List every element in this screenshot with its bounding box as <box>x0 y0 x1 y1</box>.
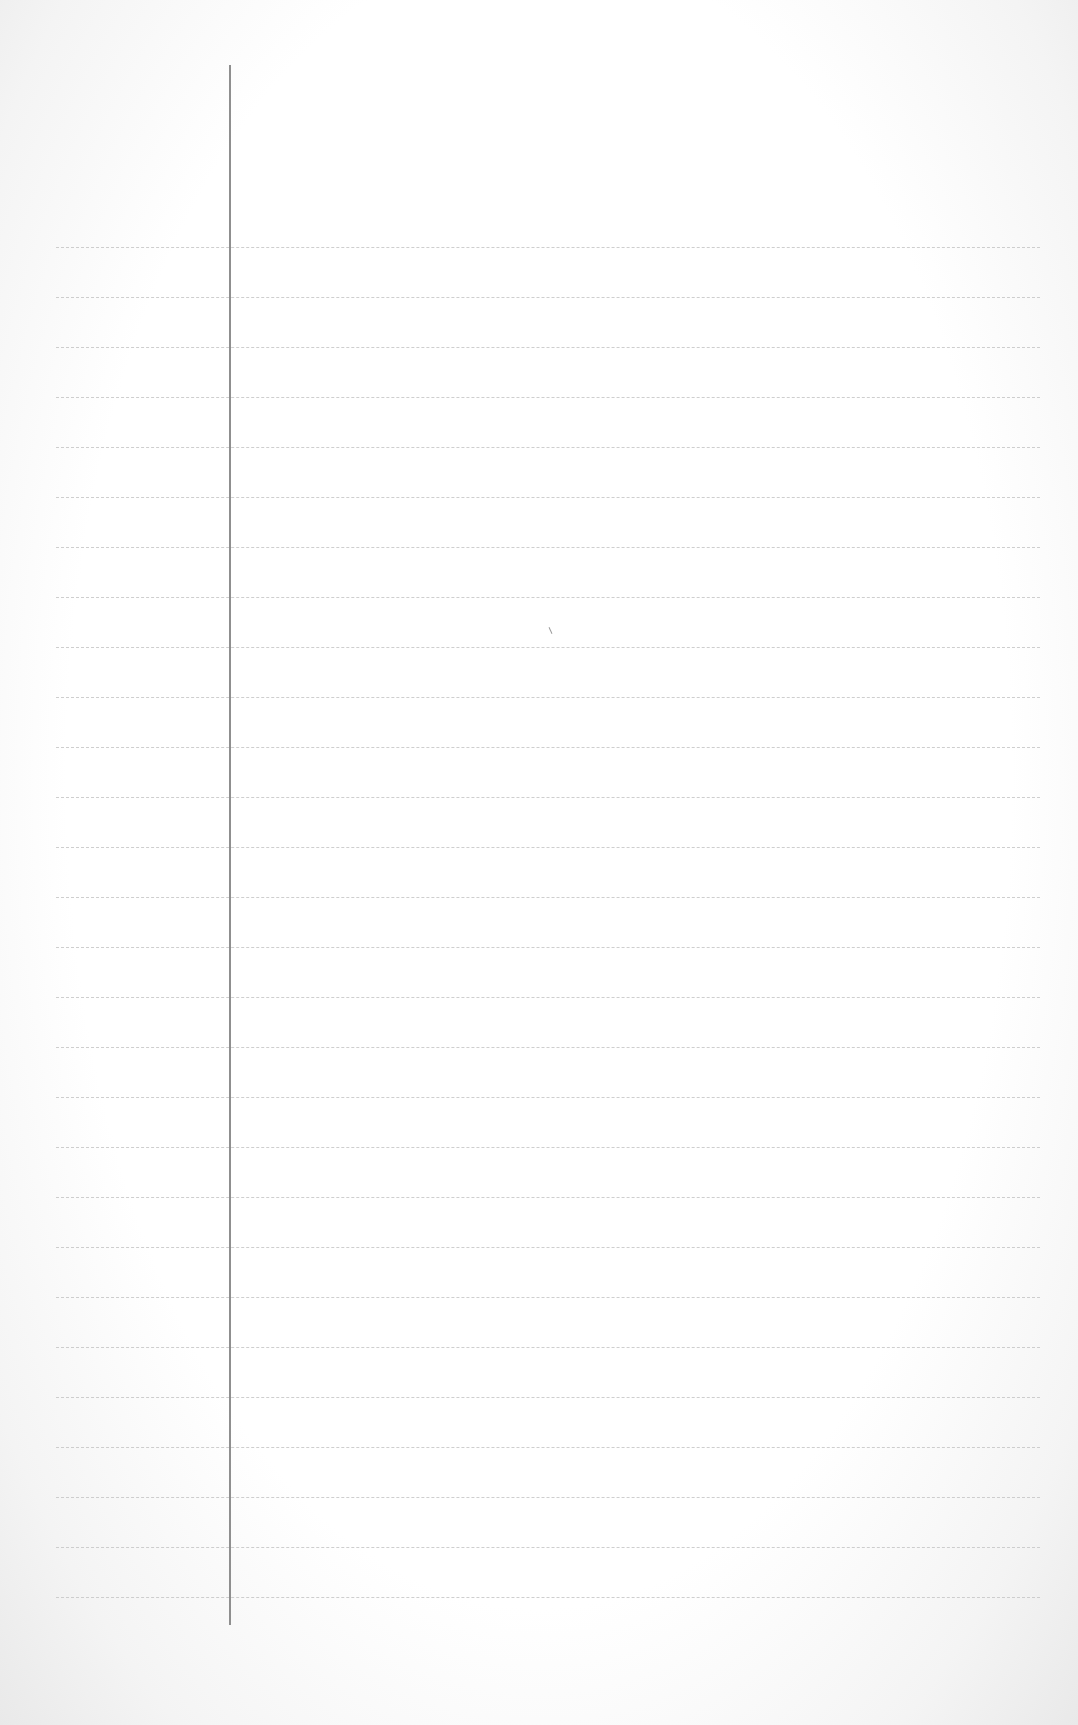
ruled-line <box>56 1597 1040 1598</box>
ruled-line <box>56 1547 1040 1548</box>
ruled-line <box>56 1147 1040 1148</box>
ruled-line <box>56 797 1040 798</box>
ruled-line <box>56 347 1040 348</box>
ruled-line <box>56 897 1040 898</box>
ruled-line <box>56 447 1040 448</box>
ruled-line <box>56 1347 1040 1348</box>
ruled-line <box>56 1247 1040 1248</box>
ruled-line <box>56 1197 1040 1198</box>
ruled-line <box>56 1047 1040 1048</box>
ruled-line <box>56 647 1040 648</box>
ruled-line <box>56 1447 1040 1448</box>
ruled-line <box>56 247 1040 248</box>
lined-paper-sheet <box>0 0 1078 1725</box>
ruled-line <box>56 747 1040 748</box>
margin-line <box>229 65 231 1625</box>
ruled-line <box>56 697 1040 698</box>
ruled-line <box>56 1397 1040 1398</box>
ruled-lines <box>0 0 1078 1725</box>
ruled-line <box>56 397 1040 398</box>
ruled-line <box>56 1097 1040 1098</box>
ruled-line <box>56 847 1040 848</box>
ruled-line <box>56 547 1040 548</box>
ruled-line <box>56 1297 1040 1298</box>
ruled-line <box>56 1497 1040 1498</box>
ruled-line <box>56 947 1040 948</box>
ruled-line <box>56 997 1040 998</box>
ruled-line <box>56 297 1040 298</box>
ruled-line <box>56 497 1040 498</box>
ruled-line <box>56 597 1040 598</box>
